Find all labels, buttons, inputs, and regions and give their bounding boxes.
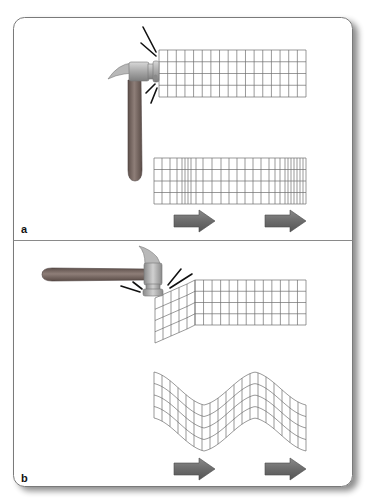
panel-label-a: a — [21, 223, 27, 235]
panel-frame — [14, 18, 353, 487]
panel-label-b: b — [21, 472, 28, 484]
figure-canvas — [0, 0, 373, 502]
